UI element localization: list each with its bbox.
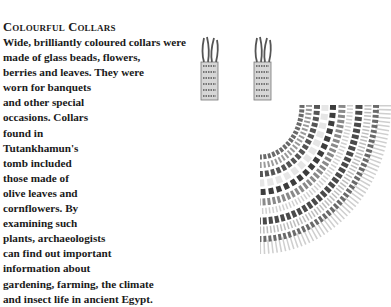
article-line: those made of	[3, 171, 333, 186]
article-line: can find out important	[3, 246, 333, 261]
article-line: made of glass beads, flowers,	[3, 50, 333, 65]
article-line: information about	[3, 261, 333, 276]
article-line: berries and leaves. They were	[3, 65, 333, 80]
article-title: Colourful Collars	[3, 20, 333, 34]
article-line: examining such	[3, 216, 333, 231]
article-line: Wide, brilliantly coloured collars were	[3, 35, 333, 50]
article-line: plants, archaeologists	[3, 231, 333, 246]
article-line: Tutankhamun's	[3, 141, 333, 156]
article-line: and insect life in ancient Egypt.	[3, 292, 333, 307]
article-text: Colourful Collars Wide, brilliantly colo…	[3, 20, 333, 307]
article-line: olive leaves and	[3, 186, 333, 201]
article-line: occasions. Collars	[3, 110, 333, 125]
article-line: cornflowers. By	[3, 201, 333, 216]
article-line: gardening, farming, the climate	[3, 277, 333, 292]
article-line: tomb included	[3, 156, 333, 171]
article-line: and other special	[3, 95, 333, 110]
article-line: found in	[3, 126, 333, 141]
article-line: worn for banquets	[3, 80, 333, 95]
